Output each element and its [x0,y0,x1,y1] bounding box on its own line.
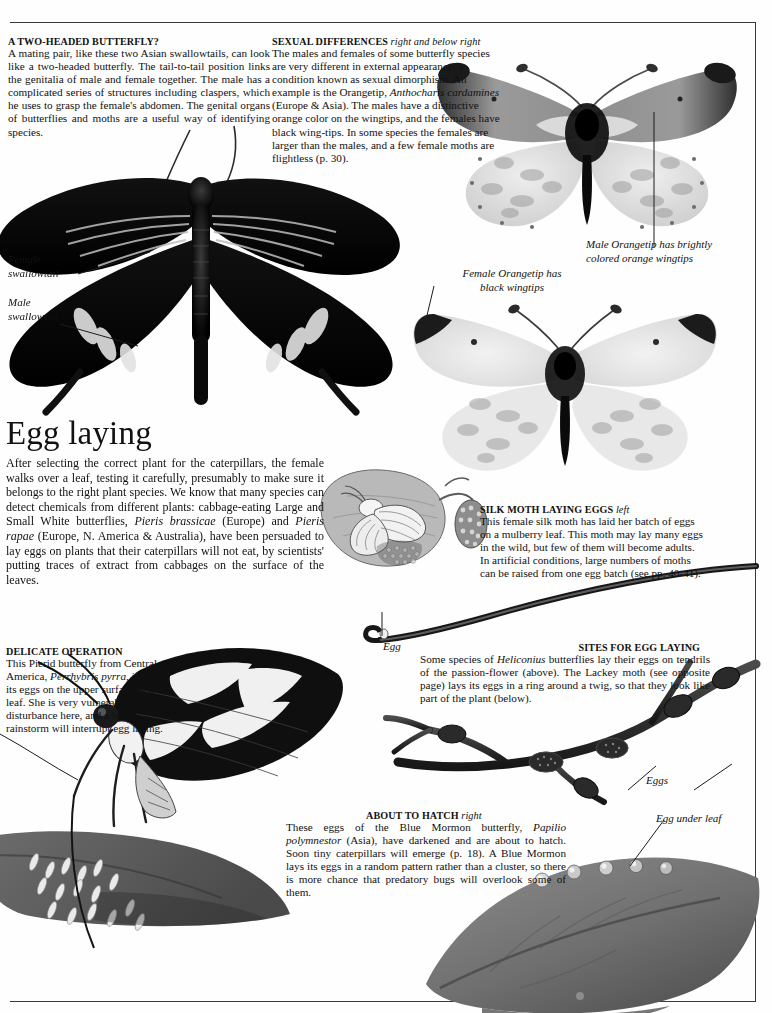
caption-body: The males and females of some butterfly … [272,47,504,165]
label-male-swallowtail: Male swallowtail [8,296,86,323]
species-name-pieris-brassicae: Pieris brassicae [134,514,215,528]
label-eggs: Eggs [646,774,668,788]
caption-heading: ABOUT TO HATCH right [286,810,566,821]
caption-heading-italic: right and below right [391,36,481,47]
caption-heading-italic: right [461,810,482,821]
caption-body: A mating pair, like these two Asian swal… [8,47,270,139]
page-border-top [10,22,756,23]
caption-heading: SITES FOR EGG LAYING [420,642,710,653]
caption-sexual-differences: SEXUAL DIFFERENCES right and below right… [272,36,504,165]
book-page: A TWO-HEADED BUTTERFLY? A mating pair, l… [0,0,772,1013]
label-egg: Egg [383,640,401,654]
leader-eggs [628,760,738,792]
caption-body-part-2: (Europe & Asia). The males have a distin… [272,99,500,163]
leader-female-swallowtail [78,252,153,280]
leader-egg [381,612,383,636]
species-name-perrhybris-pyrra: Perrhybris pyrra [50,670,126,682]
caption-heading-italic: left [616,504,630,515]
photo-female-orangetip [400,300,730,480]
caption-two-headed-butterfly: A TWO-HEADED BUTTERFLY? A mating pair, l… [8,36,270,139]
label-egg-under-leaf: Egg under leaf [656,812,721,826]
caption-silk-moth-laying-eggs: SILK MOTH LAYING EGGS left This female s… [480,504,706,580]
caption-body: This Pierid butterfly from Central Ameri… [6,657,176,736]
leader-egg-under-leaf [630,820,666,868]
species-name-anthocharis-cardamines: Anthocharis cardamines [390,86,499,98]
caption-heading: A TWO-HEADED BUTTERFLY? [8,36,270,47]
body-part-2: (Europe) and [216,514,296,528]
body-part-3: (Europe, N. America & Australia), have b… [6,529,324,587]
caption-body: This female silk moth has laid her batch… [480,515,706,580]
caption-heading-text: ABOUT TO HATCH [366,810,459,821]
section-body-text: After selecting the correct plant for th… [6,456,324,587]
caption-heading: SEXUAL DIFFERENCES right and below right [272,36,504,47]
label-female-orangetip: Female Orangetip has black wingtips [426,267,598,294]
caption-sites-for-egg-laying: SITES FOR EGG LAYING Some species of Hel… [420,642,710,705]
section-title: Egg laying [6,416,152,450]
label-female-swallowtail: Female swallowtail [8,253,86,280]
caption-heading-text: SEXUAL DIFFERENCES [272,36,388,47]
label-male-orangetip: Male Orangetip has brightly colored oran… [586,238,762,265]
caption-delicate-operation: DELICATE OPERATION This Pierid butterfly… [6,646,176,736]
genus-name-heliconius: Heliconius [497,653,545,665]
caption-heading-text: SILK MOTH LAYING EGGS [480,504,613,515]
caption-body: These eggs of the Blue Mormon butterfly,… [286,821,566,900]
caption-heading: SILK MOTH LAYING EGGS left [480,504,706,515]
section-body-egg-laying: After selecting the correct plant for th… [6,456,324,587]
caption-about-to-hatch: ABOUT TO HATCH right These eggs of the B… [286,810,566,900]
leader-male-orangetip [653,112,655,248]
caption-heading: DELICATE OPERATION [6,646,176,657]
caption-body-part-1: Some species of [420,653,497,665]
caption-body: Some species of Heliconius butterflies l… [420,653,710,705]
caption-body-part-1: These eggs of the Blue Mormon butterfly, [286,821,533,833]
leader-delicate-operation [0,730,80,782]
